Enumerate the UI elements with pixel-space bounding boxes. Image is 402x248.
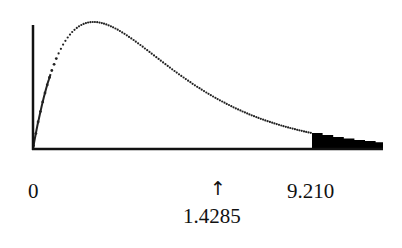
curve-dot <box>53 63 56 66</box>
curve-dot <box>85 22 87 24</box>
curve-dot <box>196 86 198 88</box>
curve-rise <box>33 74 51 149</box>
curve-dot <box>92 21 94 23</box>
curve-dot <box>237 108 239 110</box>
rejection-region <box>312 133 383 149</box>
curve-dot <box>221 100 223 102</box>
curve-dot <box>294 128 296 130</box>
curve-dot <box>50 69 53 72</box>
curve-dot <box>287 126 289 128</box>
curve-dot <box>135 41 137 43</box>
curve-dot <box>239 109 241 111</box>
curve-dot <box>217 98 219 100</box>
curve-dot <box>87 21 89 23</box>
curve-dot <box>60 48 62 50</box>
curve-dot <box>242 110 244 112</box>
curve-dot <box>267 120 269 122</box>
curve-dot <box>162 61 164 63</box>
curve-dot <box>142 46 144 48</box>
curve-dot <box>271 122 273 124</box>
curve-dot <box>273 122 275 124</box>
curve-dot <box>158 58 160 60</box>
curve-dot <box>198 87 200 89</box>
curve-dot <box>126 34 128 36</box>
curve-dot <box>251 114 253 116</box>
curve-dot <box>269 121 271 123</box>
curve-dot <box>105 23 107 25</box>
curve-dot <box>289 127 291 129</box>
curve-dot <box>248 113 250 115</box>
curve-dot <box>64 40 66 42</box>
curve-dot <box>210 94 212 96</box>
curve-dot <box>80 24 82 26</box>
curve-dot <box>178 73 180 75</box>
curve-dot <box>128 36 130 38</box>
curve-dot <box>144 47 146 49</box>
curve-dot <box>96 21 98 23</box>
curve-dot <box>310 132 312 134</box>
curve-dot <box>187 80 189 82</box>
curve-dot <box>89 21 91 23</box>
curve-dot <box>164 63 166 65</box>
curve-dot <box>244 111 246 113</box>
curve-dot <box>307 131 309 133</box>
curve-dot <box>78 25 80 27</box>
curve-dot <box>139 44 141 46</box>
curve-dot <box>123 33 125 35</box>
curve-dot <box>148 51 150 53</box>
curve-dot <box>189 81 191 83</box>
curve-dot <box>262 119 264 121</box>
curve-dot <box>167 65 169 67</box>
curve-dot <box>103 23 105 25</box>
curve-dot <box>58 52 60 54</box>
curve-dot <box>192 83 194 85</box>
curve-dot <box>55 57 58 60</box>
curve-dot <box>207 93 209 95</box>
curve-dot <box>257 117 259 119</box>
curve-dot <box>94 21 96 23</box>
critical-value-label: 9.210 <box>287 181 334 202</box>
curve-dot <box>223 102 225 104</box>
curve-dot <box>285 126 287 128</box>
curve-dot <box>185 78 187 80</box>
arrow-up-icon: ↑ <box>210 179 226 198</box>
curve-dot <box>282 125 284 127</box>
curve-dot <box>130 37 132 39</box>
curve-dot <box>214 97 216 99</box>
curve-dot <box>133 39 135 41</box>
curve-dot <box>101 22 103 24</box>
curve-dot <box>219 99 221 101</box>
curve-dot <box>69 34 71 36</box>
test-statistic-label: 1.4285 <box>183 206 241 227</box>
curve-dot <box>264 119 266 121</box>
curve-dot <box>71 31 73 33</box>
curve-dot <box>73 29 75 31</box>
curve-dot <box>83 23 85 25</box>
curve-dot <box>151 53 153 55</box>
curve-dot <box>180 75 182 77</box>
curve-dot <box>276 123 278 125</box>
curve-dot <box>230 105 232 107</box>
x-tick-zero: 0 <box>28 181 39 202</box>
curve-dot <box>194 84 196 86</box>
curve-dot <box>260 118 262 120</box>
curve-dot <box>298 129 300 131</box>
curve-dot <box>108 24 110 26</box>
curve-dot <box>114 27 116 29</box>
curve-dot <box>98 22 100 24</box>
curve-dot <box>146 49 148 51</box>
curve-dot <box>301 130 303 132</box>
curve-dot <box>112 26 114 28</box>
curve-dot <box>121 31 123 33</box>
curve-dot <box>292 128 294 130</box>
curve-dot <box>212 95 214 97</box>
curve-dot <box>76 27 78 29</box>
curve-dot <box>280 124 282 126</box>
curve-dot <box>117 29 119 31</box>
curve-dot <box>62 44 64 46</box>
curve-dot <box>137 42 139 44</box>
curve-dot <box>255 116 257 118</box>
curve-dot <box>303 130 305 132</box>
curve-dot <box>171 68 173 70</box>
curve-dot <box>228 104 230 106</box>
